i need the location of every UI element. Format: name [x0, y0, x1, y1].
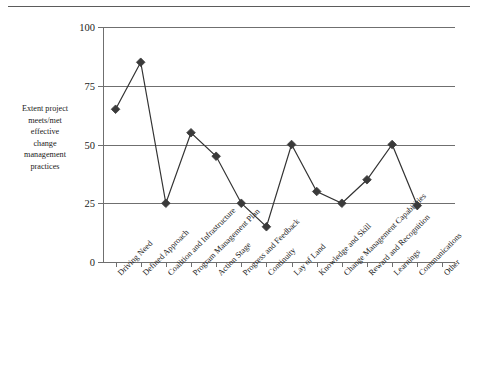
y-axis-title-line-6: practices	[6, 161, 84, 173]
y-tick-label-75: 75	[85, 80, 96, 91]
data-point-marker	[312, 187, 321, 196]
x-tick-mark-11	[392, 262, 393, 267]
chart-figure: Extent project meets/met effective chang…	[0, 0, 481, 375]
y-axis-title-line-4: change	[6, 138, 84, 150]
data-point-marker	[162, 199, 171, 208]
x-tick-mark-8	[317, 262, 318, 267]
x-tick-mark-6	[266, 262, 267, 267]
x-tick-mark-13	[442, 262, 443, 267]
series-polyline	[116, 62, 418, 227]
plot-area: 0255075100 Driving NeedDefined ApproachC…	[103, 27, 455, 262]
x-tick-mark-4	[216, 262, 217, 267]
x-tick-mark-7	[292, 262, 293, 267]
x-tick-mark-12	[417, 262, 418, 267]
y-axis-title: Extent project meets/met effective chang…	[6, 103, 84, 173]
data-series-line	[103, 0, 455, 262]
data-point-marker	[413, 201, 422, 210]
y-axis-title-line-2: meets/met	[6, 115, 84, 127]
data-point-marker	[388, 140, 397, 149]
x-tick-mark-9	[342, 262, 343, 267]
data-point-marker	[136, 58, 145, 67]
x-tick-mark-3	[191, 262, 192, 267]
y-tick-mark-0	[98, 262, 103, 263]
data-point-marker	[111, 105, 120, 114]
x-tick-mark-10	[367, 262, 368, 267]
y-axis-title-line-5: management	[6, 149, 84, 161]
x-tick-mark-1	[141, 262, 142, 267]
data-point-marker	[287, 140, 296, 149]
y-axis-title-line-1: Extent project	[6, 103, 84, 115]
x-tick-mark-5	[241, 262, 242, 267]
y-tick-label-100: 100	[79, 22, 95, 33]
y-tick-label-25: 25	[85, 198, 96, 209]
y-tick-label-0: 0	[90, 257, 95, 268]
x-tick-mark-2	[166, 262, 167, 267]
y-tick-label-50: 50	[85, 139, 96, 150]
x-tick-mark-0	[116, 262, 117, 267]
y-axis-title-line-3: effective	[6, 126, 84, 138]
